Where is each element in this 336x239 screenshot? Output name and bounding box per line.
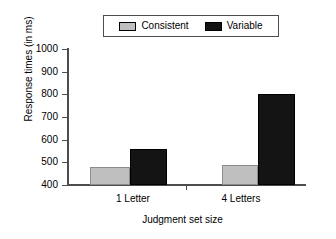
- bar-chart-figure: Consistent Variable Response times (in m…: [0, 0, 336, 239]
- bar-consistent-4-letters: [222, 165, 258, 185]
- y-tick-800: 800: [62, 94, 67, 95]
- y-tick-label-600: 600: [41, 134, 58, 145]
- y-tick-700: 700: [62, 117, 67, 118]
- y-tick-600: 600: [62, 140, 67, 141]
- y-axis-title: Response times (in ms): [24, 0, 34, 149]
- legend-swatch-variable-icon: [205, 22, 222, 31]
- chart-legend: Consistent Variable: [103, 15, 279, 37]
- y-tick-900: 900: [62, 72, 67, 73]
- bar-variable-4-letters: [258, 94, 295, 185]
- y-tick-400: 400: [62, 185, 67, 186]
- x-tick-label-4-letters: 4 Letters: [192, 193, 290, 204]
- y-tick-label-900: 900: [41, 66, 58, 77]
- x-axis-title: Judgment set size: [60, 215, 305, 225]
- y-tick-label-500: 500: [41, 156, 58, 167]
- y-tick-500: 500: [62, 162, 67, 163]
- legend-label-consistent: Consistent: [141, 21, 188, 31]
- legend-entry-variable: Variable: [205, 21, 263, 31]
- y-tick-label-400: 400: [41, 179, 58, 190]
- legend-entry-consistent: Consistent: [119, 21, 188, 31]
- y-tick-1000: 1000: [62, 49, 67, 50]
- x-tick-label-1-letter: 1 Letter: [84, 193, 182, 204]
- bar-variable-1-letter: [130, 149, 167, 185]
- legend-label-variable: Variable: [227, 21, 263, 31]
- y-tick-label-700: 700: [41, 111, 58, 122]
- x-tick-center: [186, 185, 187, 190]
- y-tick-label-1000: 1000: [36, 43, 58, 54]
- y-tick-label-800: 800: [41, 88, 58, 99]
- legend-swatch-consistent-icon: [119, 22, 136, 31]
- bar-consistent-1-letter: [90, 167, 130, 185]
- plot-area: 1000 900 800 700 600 500 400: [67, 49, 305, 185]
